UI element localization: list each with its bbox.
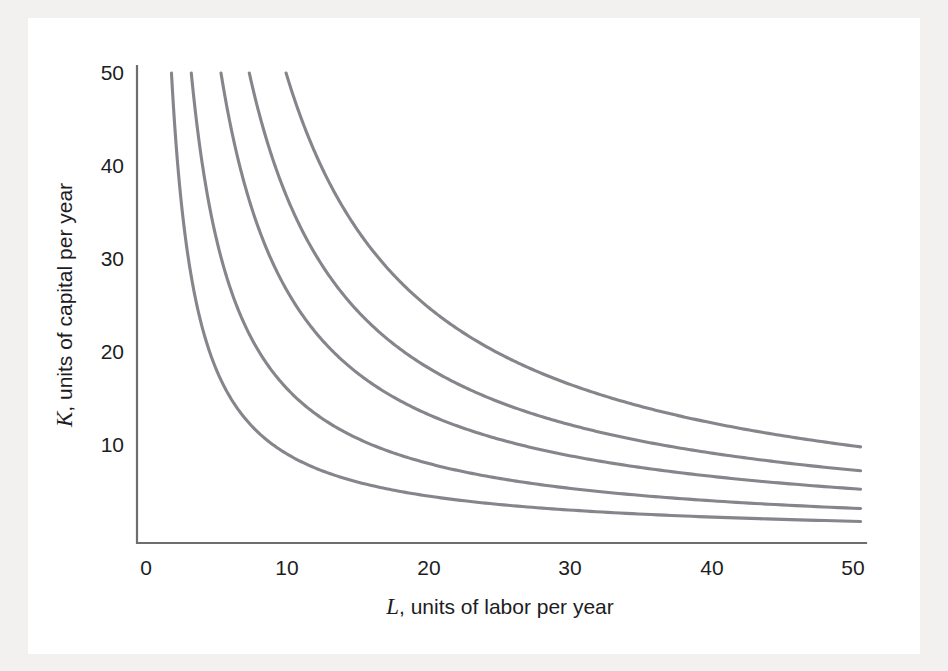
y-tick-label-30: 30: [101, 247, 124, 270]
y-tick-label-50: 50: [101, 61, 124, 84]
chart-axes: [137, 66, 866, 543]
x-tick-label-50: 50: [841, 556, 864, 579]
isoquant-curve-5: [286, 73, 860, 447]
isoquant-curve-1: [171, 73, 860, 521]
y-tick-label-10: 10: [101, 433, 124, 456]
x-tick-label-10: 10: [275, 556, 298, 579]
figure-page: 50 40 30 20 10 0 10 20 30 40 50 L, units…: [0, 0, 948, 671]
x-axis-tick-labels: 0 10 20 30 40 50: [140, 556, 865, 579]
isoquant-chart: 50 40 30 20 10 0 10 20 30 40 50 L, units…: [0, 0, 948, 671]
x-axis-title-variable: L: [385, 594, 399, 619]
y-tick-label-20: 20: [101, 340, 124, 363]
x-tick-label-0: 0: [140, 556, 152, 579]
x-tick-label-20: 20: [417, 556, 440, 579]
x-tick-label-30: 30: [558, 556, 581, 579]
x-tick-label-40: 40: [700, 556, 723, 579]
y-tick-label-40: 40: [101, 154, 124, 177]
chart-svg: 50 40 30 20 10 0 10 20 30 40 50 L, units…: [0, 0, 948, 671]
y-axis-title: K, units of capital per year: [52, 183, 77, 428]
isoquant-curve-4: [249, 73, 860, 471]
y-axis-title-variable: K: [52, 410, 77, 428]
x-axis-title-rest: , units of labor per year: [399, 595, 614, 618]
y-axis-title-rest: , units of capital per year: [53, 183, 76, 412]
isoquant-curve-2: [191, 73, 860, 509]
x-axis-title: L, units of labor per year: [385, 594, 614, 619]
isoquant-curve-group: [171, 73, 860, 521]
isoquant-curve-3: [221, 73, 861, 489]
y-axis-tick-labels: 50 40 30 20 10: [101, 61, 124, 456]
